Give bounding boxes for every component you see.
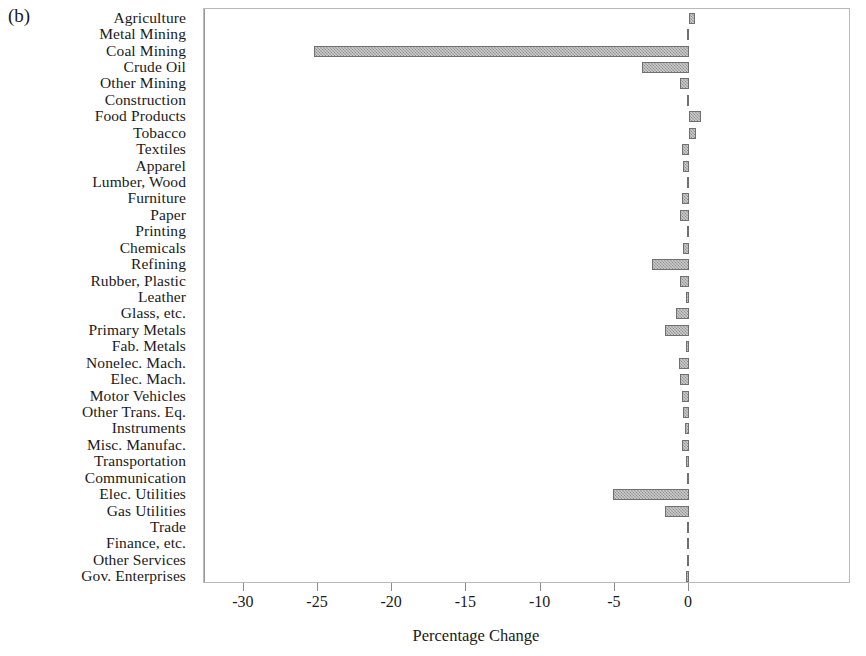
bar [687, 522, 689, 533]
category-label: Primary Metals [89, 322, 186, 338]
bar [665, 325, 689, 336]
category-label: Gas Utilities [107, 503, 186, 519]
category-label: Food Products [95, 108, 186, 124]
bar [679, 358, 689, 369]
category-label: Elec. Mach. [110, 371, 186, 387]
bar [685, 423, 689, 434]
category-label: Agriculture [113, 10, 186, 26]
zero-reference-line [204, 9, 205, 582]
x-tick-label: -20 [381, 594, 402, 610]
x-tick [317, 583, 318, 591]
bar [680, 78, 689, 89]
category-label: Gov. Enterprises [81, 568, 186, 584]
category-label: Metal Mining [99, 26, 186, 42]
x-tick-label: -25 [306, 594, 327, 610]
x-tick [540, 583, 541, 591]
bar [682, 193, 689, 204]
bar [683, 407, 689, 418]
category-label: Textiles [136, 141, 186, 157]
bar [687, 555, 689, 566]
x-tick [465, 583, 466, 591]
category-label: Rubber, Plastic [90, 273, 186, 289]
bar [683, 161, 689, 172]
category-label: Refining [131, 256, 186, 272]
category-label: Instruments [112, 420, 186, 436]
bar [680, 374, 689, 385]
x-tick-label: -5 [607, 594, 620, 610]
category-label: Other Services [93, 552, 186, 568]
bar [676, 308, 689, 319]
figure-panel-b: (b) AgricultureMetal MiningCoal MiningCr… [0, 0, 866, 656]
bar [687, 177, 689, 188]
plot-area [203, 8, 850, 583]
category-label: Motor Vehicles [90, 388, 186, 404]
category-label: Finance, etc. [106, 535, 186, 551]
bar [686, 456, 689, 467]
category-label: Nonelec. Mach. [86, 355, 186, 371]
x-axis-tick-labels: -30-25-20-15-10-50 [203, 594, 850, 616]
category-label: Crude Oil [124, 59, 186, 75]
bar [682, 440, 689, 451]
category-label: Chemicals [120, 240, 186, 256]
bar [680, 210, 689, 221]
category-label: Trade [150, 519, 186, 535]
category-label: Furniture [127, 190, 186, 206]
bar [686, 341, 689, 352]
x-tick [688, 583, 689, 591]
category-label: Paper [150, 207, 186, 223]
category-label: Lumber, Wood [92, 174, 186, 190]
category-label: Other Mining [100, 75, 186, 91]
x-axis-ticks [203, 583, 850, 593]
x-tick-label: -10 [529, 594, 550, 610]
bar [687, 226, 689, 237]
category-label: Transportation [94, 453, 186, 469]
x-axis-title-text: Percentage Change [413, 628, 540, 645]
category-label: Elec. Utilities [99, 486, 186, 502]
bar [686, 571, 689, 582]
bar [687, 473, 689, 484]
x-axis-title: Percentage Change [0, 628, 866, 645]
x-tick [614, 583, 615, 591]
bar [652, 259, 689, 270]
x-tick-label: -15 [455, 594, 476, 610]
category-label: Coal Mining [106, 43, 186, 59]
x-tick-label: -30 [232, 594, 253, 610]
category-label: Misc. Manufac. [87, 437, 186, 453]
category-label: Printing [135, 223, 186, 239]
bar [682, 144, 689, 155]
bar [687, 29, 689, 40]
x-tick [243, 583, 244, 591]
bar [665, 506, 689, 517]
category-label: Tobacco [133, 125, 186, 141]
category-axis-labels: AgricultureMetal MiningCoal MiningCrude … [0, 8, 186, 583]
bar [314, 46, 689, 57]
category-label: Communication [85, 470, 186, 486]
bar [687, 538, 689, 549]
category-label: Fab. Metals [112, 338, 186, 354]
category-label: Glass, etc. [121, 305, 186, 321]
bar [686, 292, 689, 303]
bar [689, 13, 695, 24]
bar [683, 243, 689, 254]
bar [642, 62, 689, 73]
bar [680, 276, 689, 287]
bar [687, 95, 689, 106]
category-label: Apparel [135, 158, 186, 174]
bar [682, 391, 689, 402]
bar [689, 111, 701, 122]
category-label: Other Trans. Eq. [82, 404, 186, 420]
x-tick [391, 583, 392, 591]
category-label: Construction [105, 92, 186, 108]
x-tick-label: 0 [684, 594, 692, 610]
bar [613, 489, 689, 500]
bar [689, 128, 696, 139]
category-label: Leather [138, 289, 186, 305]
